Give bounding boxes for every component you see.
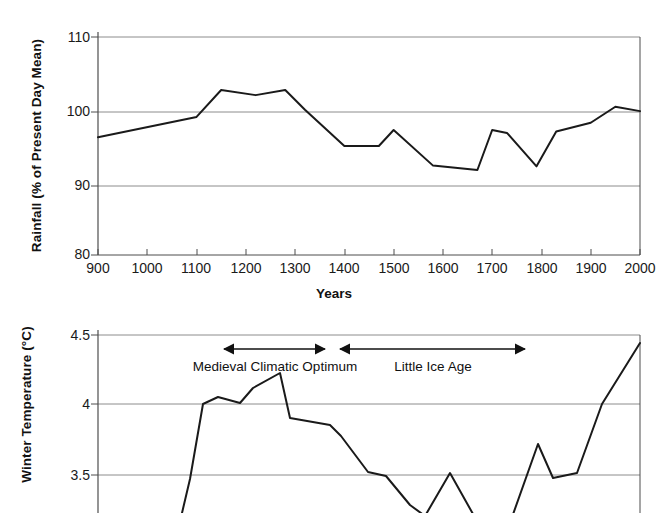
temperature-plot-area: [0, 318, 668, 513]
temperature-data-line: [104, 343, 640, 513]
rainfall-chart-panel: Rainfall (% of Present Day Mean) 110 100…: [0, 0, 668, 318]
climate-figure: Rainfall (% of Present Day Mean) 110 100…: [0, 0, 668, 513]
rainfall-plot-area: [0, 0, 668, 318]
temperature-chart-panel: Winter Temperature (°C) 4.5 4 3.5 Mediev…: [0, 318, 668, 513]
x-tick-marks: [98, 249, 640, 255]
y-tick-marks: [91, 37, 98, 255]
y-tick-marks: [91, 335, 98, 475]
rainfall-data-line: [98, 90, 640, 170]
